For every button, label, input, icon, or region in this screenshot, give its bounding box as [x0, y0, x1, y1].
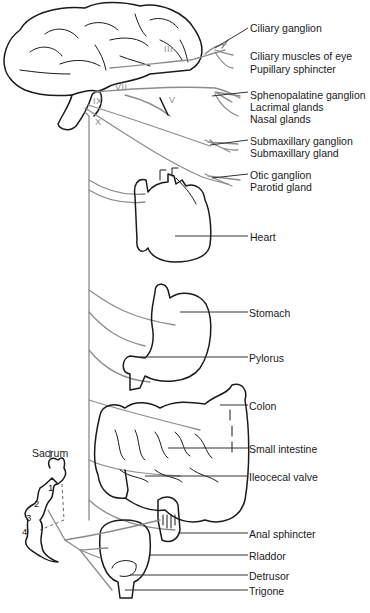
sacrum-illustration — [25, 458, 65, 562]
rectum-illustration — [158, 497, 180, 542]
label-otic-ganglion: Otic ganglion — [250, 169, 311, 181]
label-detrusor: Detrusor — [249, 570, 289, 582]
ganglion-branches — [205, 28, 248, 186]
cranial-nerve-label-vii: VII — [115, 82, 128, 92]
sacral-segment-3: 3 — [26, 512, 31, 523]
sacral-segment-4: 4 — [22, 526, 27, 537]
sacral-nerve-paths — [48, 510, 160, 590]
sacral-segment-2: 2 — [34, 498, 39, 509]
label-submaxillary-gland: Submaxillary gland — [250, 147, 339, 159]
label-anal-sphincter: Anal sphincter — [249, 528, 316, 540]
label-stomach: Stomach — [249, 307, 290, 319]
label-ileocecal-valve: Ileocecal valve — [249, 471, 318, 483]
label-submaxillary-ganglion: Submaxillary ganglion — [250, 135, 353, 147]
label-pylorus: Pylorus — [249, 352, 284, 364]
cranial-nerve-label-ix: IX — [93, 96, 103, 106]
sacrum-label: Sacrum — [32, 447, 68, 459]
label-parotid-gland: Parotid gland — [250, 181, 312, 193]
label-colon: Colon — [249, 400, 276, 412]
vagus-branches — [89, 180, 200, 530]
cranial-nerve-label-v: V — [169, 95, 176, 105]
label-small-intestine: Small intestine — [249, 443, 317, 455]
sacral-segment-1: 1 — [48, 482, 53, 493]
stomach-illustration — [123, 284, 211, 390]
cranial-nerve-label-iii: III — [164, 44, 173, 54]
label-sphenopalatine-ganglion: Sphenopalatine ganglion — [250, 89, 366, 101]
label-ciliary-ganglion: Ciliary ganglion — [250, 22, 322, 34]
label-nasal-glands: Nasal glands — [250, 113, 311, 125]
label-lacrimal-glands: Lacrimal glands — [250, 101, 324, 113]
heart-illustration — [135, 168, 211, 262]
label-ciliary-muscles: Ciliary muscles of eye — [250, 50, 352, 62]
label-heart: Heart — [250, 231, 276, 243]
label-bladder: Rladdor — [249, 550, 286, 562]
brain-illustration — [4, 3, 202, 130]
label-trigone: Trigone — [249, 585, 284, 597]
cranial-nerve-label-x: X — [95, 117, 102, 127]
label-pupillary-sphincter: Pupillary sphincter — [250, 63, 336, 75]
